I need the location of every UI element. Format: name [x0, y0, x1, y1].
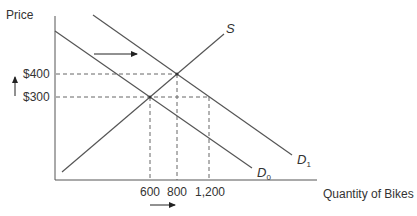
y-axis-label: Price	[6, 8, 34, 22]
supply-demand-diagram: Price Quantity of Bikes $400 $300 600 80…	[0, 0, 417, 216]
reference-lines	[56, 74, 209, 180]
d0-label: D0	[257, 165, 271, 182]
d1-label: D1	[297, 152, 311, 169]
x-tick-600: 600	[140, 185, 160, 199]
supply-label: S	[226, 21, 235, 36]
axes	[55, 16, 317, 180]
x-tick-1200: 1,200	[195, 185, 225, 199]
y-tick-300: $300	[23, 90, 50, 104]
x-tick-800: 800	[167, 185, 187, 199]
x-axis-label: Quantity of Bikes	[323, 187, 414, 201]
demand-curve-d1	[93, 15, 292, 155]
equilibrium-new	[176, 73, 179, 76]
y-tick-400: $400	[23, 67, 50, 81]
supply-curve	[62, 34, 224, 172]
demand-curve-d0	[55, 31, 252, 168]
equilibrium-initial	[149, 96, 152, 99]
